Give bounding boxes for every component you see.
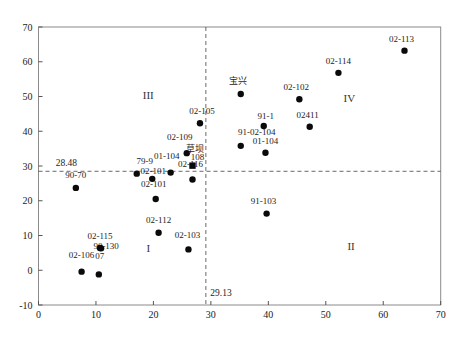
- quadrant-label-IV: IV: [344, 92, 356, 104]
- scatter-figure: 010203040506070-1001020304050607028.4829…: [0, 0, 462, 343]
- data-point: [238, 143, 244, 149]
- data-point-square: [189, 162, 195, 168]
- data-point: [238, 91, 244, 97]
- x-tick-label: 40: [263, 309, 273, 320]
- data-point: [96, 271, 102, 277]
- data-point: [296, 96, 302, 102]
- plot-frame: [39, 27, 441, 305]
- point-label: 07: [95, 251, 105, 261]
- point-label: 02-112: [146, 215, 171, 225]
- data-point: [167, 169, 173, 175]
- data-point: [197, 120, 203, 126]
- y-tick-label: 20: [23, 195, 33, 206]
- point-label: 02-103: [175, 230, 201, 240]
- x-tick-label: 60: [378, 309, 388, 320]
- point-label: 02-105: [189, 106, 215, 116]
- point-label: 02-106: [69, 250, 95, 260]
- x-tick-label: 70: [436, 309, 446, 320]
- scatter-plot: 010203040506070-1001020304050607028.4829…: [0, 0, 462, 343]
- quadrant-label-I: I: [146, 242, 150, 254]
- x-tick-label: 20: [148, 309, 158, 320]
- point-label: 02-115: [87, 231, 113, 241]
- y-tick-label: 50: [23, 91, 33, 102]
- y-tick-label: 30: [23, 161, 33, 172]
- point-label: 02-102: [284, 82, 310, 92]
- vertical-ref-value-label: 29.13: [210, 288, 232, 298]
- data-point: [401, 47, 407, 53]
- y-tick-label: 70: [23, 22, 33, 33]
- data-point: [335, 70, 341, 76]
- quadrant-label-III: III: [143, 89, 154, 101]
- data-point: [98, 245, 104, 251]
- x-tick-label: 30: [206, 309, 216, 320]
- x-tick-label: 10: [91, 309, 101, 320]
- point-label: 02411: [297, 110, 319, 120]
- data-point: [185, 246, 191, 252]
- point-label: 90-70: [65, 170, 86, 180]
- point-label: 91-103: [251, 196, 277, 206]
- y-tick-label: 10: [23, 230, 33, 241]
- point-label: 01-104: [253, 136, 279, 146]
- point-label: 02-114: [326, 56, 352, 66]
- point-label: 宝兴: [229, 75, 247, 86]
- point-label: 91-1: [257, 111, 274, 121]
- data-point: [155, 230, 161, 236]
- quadrant-label-II: II: [347, 240, 355, 252]
- point-label: 02-101: [141, 166, 167, 176]
- y-tick-label: 0: [28, 265, 33, 276]
- data-point: [134, 170, 140, 176]
- y-tick-label: 60: [23, 56, 33, 67]
- point-label: 01-104: [154, 151, 180, 161]
- horizontal-ref-value-label: 28.48: [56, 158, 78, 168]
- x-tick-label: 0: [36, 309, 41, 320]
- point-label: 02-113: [389, 34, 415, 44]
- point-label: 02-109: [167, 132, 193, 142]
- data-point: [73, 185, 79, 191]
- point-label: 79-9: [137, 156, 154, 166]
- data-point: [306, 124, 312, 130]
- data-point: [261, 123, 267, 129]
- data-point: [153, 196, 159, 202]
- y-tick-label: -10: [19, 300, 32, 311]
- data-point: [189, 176, 195, 182]
- data-point: [149, 176, 155, 182]
- y-tick-label: 40: [23, 126, 33, 137]
- x-tick-label: 50: [321, 309, 331, 320]
- data-point: [262, 150, 268, 156]
- data-point: [263, 210, 269, 216]
- data-point: [184, 150, 190, 156]
- data-point: [78, 268, 84, 274]
